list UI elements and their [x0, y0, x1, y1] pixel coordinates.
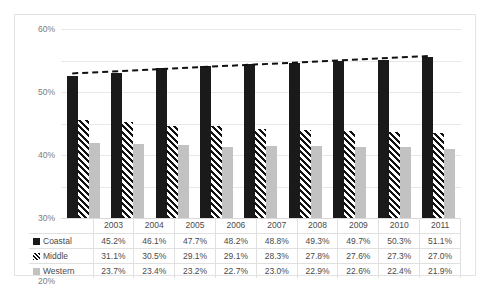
bar-western-2003	[89, 143, 100, 218]
cell-middle-2007: 28.3%	[256, 248, 297, 263]
cell-western-2011: 21.9%	[420, 263, 461, 278]
bar-western-2004	[133, 144, 144, 218]
x-axis-label-2008: 2008	[297, 218, 338, 233]
cell-middle-2005: 29.1%	[175, 248, 216, 263]
plot-area: 0%10%20%30%40%50%60%	[61, 29, 461, 218]
cell-coastal-2004: 46.1%	[134, 233, 175, 248]
cell-middle-2006: 29.1%	[215, 248, 256, 263]
table-body: Coastal45.2%46.1%47.7%48.2%48.8%49.3%49.…	[29, 233, 461, 278]
y-axis-label-60%: 60%	[15, 24, 55, 34]
bar-coastal-2004	[111, 73, 122, 218]
legend-item-western[interactable]: Western	[29, 263, 93, 278]
cell-middle-2010: 27.3%	[379, 248, 420, 263]
cell-coastal-2007: 48.8%	[256, 233, 297, 248]
bar-middle-2003	[78, 120, 89, 218]
bar-group-2010	[372, 29, 416, 218]
legend-label: Coastal	[43, 236, 72, 246]
y-axis-label-40%: 40%	[15, 150, 55, 160]
table-header-row: 200320042005200620072008200920102011	[29, 218, 461, 233]
cell-middle-2003: 31.1%	[93, 248, 134, 263]
legend-item-middle[interactable]: Middle	[29, 248, 93, 263]
bar-western-2009	[355, 147, 366, 218]
legend-swatch-middle-icon	[33, 253, 40, 260]
legend-swatch-western-icon	[33, 268, 40, 275]
cell-coastal-2003: 45.2%	[93, 233, 134, 248]
cell-coastal-2010: 50.3%	[379, 233, 420, 248]
bar-western-2005	[178, 145, 189, 218]
bar-group-2005	[150, 29, 194, 218]
cell-western-2006: 22.7%	[215, 263, 256, 278]
cell-western-2005: 23.2%	[175, 263, 216, 278]
cell-middle-2011: 27.0%	[420, 248, 461, 263]
cell-western-2004: 23.4%	[134, 263, 175, 278]
cell-middle-2004: 30.5%	[134, 248, 175, 263]
bar-coastal-2006	[200, 66, 211, 218]
bar-western-2011	[444, 149, 455, 218]
table-row: Middle31.1%30.5%29.1%29.1%28.3%27.8%27.6…	[29, 248, 461, 263]
legend-swatch-coastal-icon	[33, 238, 40, 245]
legend-label: Middle	[43, 251, 68, 261]
cell-coastal-2006: 48.2%	[215, 233, 256, 248]
bar-middle-2006	[211, 126, 222, 218]
bar-group-2008	[283, 29, 327, 218]
cell-coastal-2011: 51.1%	[420, 233, 461, 248]
bar-middle-2007	[255, 129, 266, 218]
x-axis-label-2004: 2004	[134, 218, 175, 233]
chart-frame: 0%10%20%30%40%50%60% 2003200420052006200…	[14, 14, 476, 276]
bar-coastal-2010	[378, 60, 389, 218]
bar-middle-2008	[300, 130, 311, 218]
x-axis-label-2007: 2007	[256, 218, 297, 233]
bar-group-2006	[194, 29, 238, 218]
cell-coastal-2009: 49.7%	[338, 233, 379, 248]
bar-western-2006	[222, 147, 233, 219]
cell-western-2007: 23.0%	[256, 263, 297, 278]
bar-group-2007	[239, 29, 283, 218]
bar-coastal-2008	[289, 63, 300, 218]
x-axis-label-2005: 2005	[175, 218, 216, 233]
cell-coastal-2005: 47.7%	[175, 233, 216, 248]
cell-middle-2009: 27.6%	[338, 248, 379, 263]
bar-group-2003	[61, 29, 105, 218]
bar-middle-2005	[167, 126, 178, 218]
table-row: Coastal45.2%46.1%47.7%48.2%48.8%49.3%49.…	[29, 233, 461, 248]
x-axis-label-2003: 2003	[93, 218, 134, 233]
bar-middle-2004	[122, 122, 133, 218]
cell-middle-2008: 27.8%	[297, 248, 338, 263]
cell-western-2009: 22.6%	[338, 263, 379, 278]
bar-western-2007	[266, 146, 277, 218]
legend-label: Western	[43, 266, 75, 276]
bar-group-2009	[328, 29, 372, 218]
x-axis-label-2010: 2010	[379, 218, 420, 233]
table-row: Western23.7%23.4%23.2%22.7%23.0%22.9%22.…	[29, 263, 461, 278]
x-axis-label-2006: 2006	[215, 218, 256, 233]
cell-western-2010: 22.4%	[379, 263, 420, 278]
bars-layer	[61, 29, 461, 218]
cell-coastal-2008: 49.3%	[297, 233, 338, 248]
bar-group-2004	[105, 29, 149, 218]
bar-coastal-2009	[333, 61, 344, 218]
data-table: 200320042005200620072008200920102011 Coa…	[29, 218, 461, 278]
bar-middle-2009	[344, 131, 355, 218]
legend-item-coastal[interactable]: Coastal	[29, 233, 93, 248]
bar-middle-2011	[433, 133, 444, 218]
x-axis-label-2009: 2009	[338, 218, 379, 233]
bar-group-2011	[417, 29, 461, 218]
bar-western-2008	[311, 146, 322, 218]
bar-coastal-2007	[244, 64, 255, 218]
bar-coastal-2003	[67, 76, 78, 218]
cell-western-2003: 23.7%	[93, 263, 134, 278]
y-axis-label-50%: 50%	[15, 87, 55, 97]
bar-western-2010	[400, 147, 411, 218]
x-axis-label-2011: 2011	[420, 218, 461, 233]
bar-coastal-2005	[156, 68, 167, 218]
table-corner-cell	[29, 218, 93, 233]
cell-western-2008: 22.9%	[297, 263, 338, 278]
bar-coastal-2011	[422, 57, 433, 218]
bar-middle-2010	[389, 132, 400, 218]
